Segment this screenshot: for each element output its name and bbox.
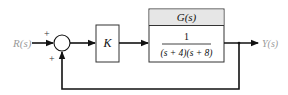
output-label: Y(s) — [262, 38, 279, 50]
transfer-function-numerator: 1 — [184, 31, 189, 42]
input-label: R(s) — [12, 37, 32, 50]
gain-block-label: K — [102, 36, 112, 50]
plant-block-title: G(s) — [177, 11, 197, 24]
summing-junction — [54, 35, 70, 51]
plus-sign-top: + — [44, 28, 50, 39]
transfer-function-denominator: (s + 4)(s + 8) — [161, 48, 213, 59]
block-diagram: R(s) + + K G(s) 1 (s + 4)(s + 8) Y(s) — [0, 0, 288, 95]
plus-sign-bottom: + — [49, 53, 55, 64]
